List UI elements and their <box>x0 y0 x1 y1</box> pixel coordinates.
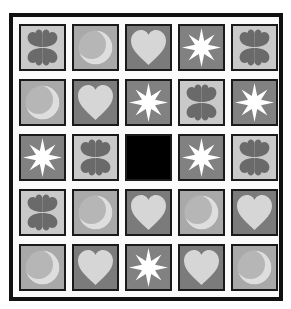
tile-clover[interactable] <box>231 24 278 71</box>
tile-heart[interactable] <box>72 244 119 291</box>
tile-heart[interactable] <box>178 244 225 291</box>
tile-clover[interactable] <box>231 134 278 181</box>
tile-moon[interactable] <box>178 189 225 236</box>
star-icon <box>21 136 64 179</box>
tile-heart[interactable] <box>125 24 172 71</box>
heart-icon <box>127 191 170 234</box>
heart-icon <box>74 81 117 124</box>
tile-moon[interactable] <box>72 189 119 236</box>
tile-clover[interactable] <box>72 134 119 181</box>
clover-icon <box>233 26 276 69</box>
clover-icon <box>21 191 64 234</box>
star-icon <box>127 246 170 289</box>
tile-star[interactable] <box>19 134 66 181</box>
clover-icon <box>74 136 117 179</box>
clover-icon <box>180 81 223 124</box>
clover-icon <box>233 136 276 179</box>
moon-icon <box>180 191 223 234</box>
tile-moon[interactable] <box>231 244 278 291</box>
clover-icon <box>21 26 64 69</box>
moon-icon <box>21 81 64 124</box>
tile-star[interactable] <box>178 24 225 71</box>
tile-clover[interactable] <box>19 189 66 236</box>
tile-star[interactable] <box>178 134 225 181</box>
moon-icon <box>74 191 117 234</box>
moon-icon <box>74 26 117 69</box>
tile-heart[interactable] <box>72 79 119 126</box>
star-icon <box>180 136 223 179</box>
tile-clover[interactable] <box>19 24 66 71</box>
star-icon <box>180 26 223 69</box>
tile-grid <box>19 24 278 291</box>
tile-moon[interactable] <box>19 79 66 126</box>
tile-moon[interactable] <box>19 244 66 291</box>
heart-icon <box>127 26 170 69</box>
moon-icon <box>233 246 276 289</box>
tile-heart[interactable] <box>125 189 172 236</box>
star-icon <box>127 81 170 124</box>
heart-icon <box>180 246 223 289</box>
star-icon <box>233 81 276 124</box>
tile-star[interactable] <box>231 79 278 126</box>
tile-star[interactable] <box>125 79 172 126</box>
moon-icon <box>21 246 64 289</box>
board-frame <box>9 13 283 301</box>
tile-heart[interactable] <box>231 189 278 236</box>
tile-moon[interactable] <box>72 24 119 71</box>
tile-clover[interactable] <box>178 79 225 126</box>
heart-icon <box>233 191 276 234</box>
heart-icon <box>74 246 117 289</box>
tile-star[interactable] <box>125 244 172 291</box>
empty-slot[interactable] <box>125 134 172 181</box>
